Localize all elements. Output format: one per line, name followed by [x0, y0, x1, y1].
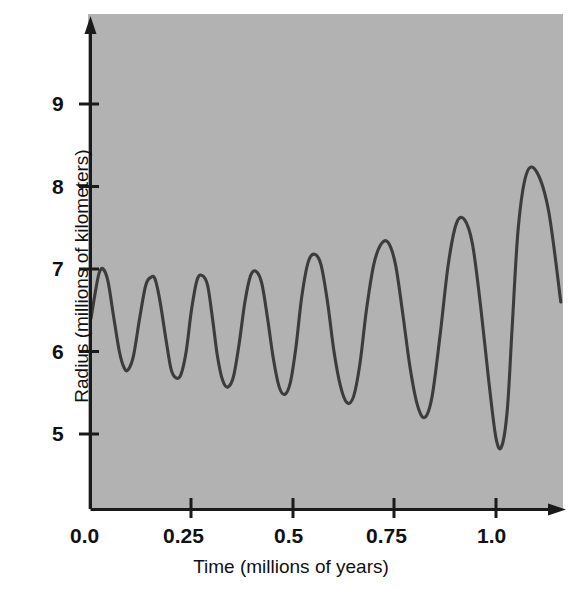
y-tick-label-6: 6 [52, 340, 64, 364]
plot-area [88, 14, 563, 509]
x-tick-label-1: 0.25 [163, 524, 204, 548]
y-tick-label-7: 7 [52, 257, 64, 281]
x-axis-title: Time (millions of years) [0, 556, 582, 578]
figure-root: 5 6 7 8 9 0.0 0.25 0.5 0.75 1.0 Time (mi… [0, 0, 582, 595]
x-tick-label-3: 0.75 [366, 524, 407, 548]
chart-figure: 5 6 7 8 9 0.0 0.25 0.5 0.75 1.0 Time (mi… [0, 0, 582, 595]
y-tick-label-8: 8 [52, 175, 64, 199]
x-tick-label-4: 1.0 [477, 524, 506, 548]
x-tick-label-0: 0.0 [70, 524, 99, 548]
y-tick-label-9: 9 [52, 92, 64, 116]
x-tick-label-2: 0.5 [274, 524, 303, 548]
y-tick-label-5: 5 [52, 422, 64, 446]
y-axis-title: Radius (millions of kilometers) [71, 66, 93, 486]
